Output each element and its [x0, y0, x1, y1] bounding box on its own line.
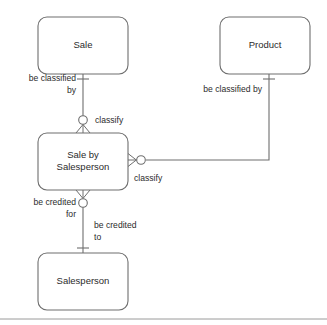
cardinality-zero-circle-sale [79, 116, 88, 125]
cardinality-many-crowfoot-product [128, 154, 136, 167]
label-sale-classify: classify [95, 115, 124, 125]
cardinality-many-crowfoot-sale [76, 125, 90, 134]
label-be-credited-for-line2: for [66, 209, 76, 219]
entity-sale-by-salesperson-label-line1: Sale by [67, 149, 99, 160]
label-product-classify: classify [134, 173, 163, 183]
entity-sale-by-salesperson-label-line2: Salesperson [57, 161, 110, 172]
er-diagram-svg: Sale Product Sale by Salesperson Salespe… [0, 0, 327, 325]
label-product-be-classified-by: be classified by [203, 84, 262, 94]
relationship-person-credited [76, 190, 90, 253]
label-be-credited-to-line2: to [94, 232, 101, 242]
er-diagram-canvas: Sale Product Sale by Salesperson Salespe… [0, 0, 327, 325]
entity-salesperson[interactable]: Salesperson [38, 253, 128, 310]
label-be-credited-to-line1: be credited [94, 220, 137, 230]
entity-sale-by-salesperson[interactable]: Sale by Salesperson [38, 133, 128, 190]
cardinality-zero-circle-product [137, 156, 146, 165]
entity-sale-label: Sale [73, 39, 92, 50]
cardinality-zero-circle-credited [79, 199, 88, 208]
label-be-credited-for-line1: be credited [33, 197, 76, 207]
entity-sale[interactable]: Sale [38, 17, 128, 74]
entity-salesperson-label: Salesperson [57, 275, 110, 286]
label-sale-be-classified-by-line2: by [67, 85, 77, 95]
relationship-sale-classifies [76, 74, 90, 133]
cardinality-many-crowfoot-credited [76, 190, 90, 199]
label-sale-be-classified-by-line1: be classified [29, 73, 77, 83]
entity-product-label: Product [249, 39, 282, 50]
entity-product[interactable]: Product [220, 17, 310, 74]
